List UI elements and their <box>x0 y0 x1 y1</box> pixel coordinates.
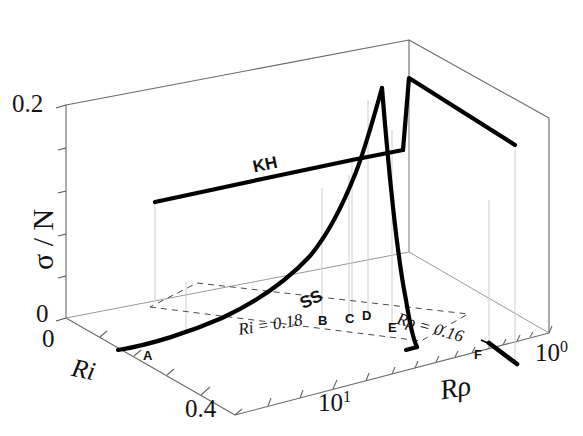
x-tick-2 <box>134 350 141 356</box>
z-axis-label: σ / N <box>26 209 60 270</box>
curve-e-hook <box>406 347 417 350</box>
z-tick-label-min: 0 <box>36 300 49 328</box>
point-label-e: E <box>388 320 397 335</box>
y-tick-h <box>455 351 458 357</box>
x-tick-label-max: 0.4 <box>185 395 216 423</box>
z-tick-major-top <box>56 105 66 108</box>
z-tick-major-bot <box>56 318 66 321</box>
y-tick-a <box>268 398 271 406</box>
y-tick-mantissa-0: 10 <box>535 339 560 366</box>
x-tick-1 <box>100 331 107 337</box>
y-tick-label-10e0: 100 <box>535 338 568 367</box>
curve-f-segment <box>489 343 517 364</box>
y-tick-mantissa-1: 10 <box>318 389 343 416</box>
y-tick-exponent-0: 0 <box>560 338 568 355</box>
y-tick-exponent-1: 1 <box>343 388 351 405</box>
back-left-wall <box>66 40 409 318</box>
y-tick-m <box>530 332 533 337</box>
point-label-d: D <box>362 308 371 323</box>
curve-ss <box>118 88 382 350</box>
curve-kh-peak <box>403 78 515 150</box>
back-right-wall <box>409 40 549 333</box>
point-label-a: A <box>143 348 152 363</box>
z-tick-label-max: 0.2 <box>12 90 43 118</box>
figure-canvas: 0.2 0 σ / N 0 0.4 Ri 101 100 Rρ KH SS Ri… <box>0 0 583 436</box>
y-axis-ticks <box>268 326 552 406</box>
point-label-f: F <box>474 347 482 362</box>
point-label-c: C <box>345 311 354 326</box>
z-tick-minor-4 <box>58 276 66 278</box>
x-axis-ticks <box>100 331 242 415</box>
curve-kh <box>155 150 403 202</box>
z-tick-minor-2 <box>58 191 66 193</box>
x-tick-major <box>201 387 210 395</box>
y-axis-label: Rρ <box>437 370 473 407</box>
y-tick-label-10e1: 101 <box>318 388 351 417</box>
x-tick-3 <box>167 369 174 375</box>
x-tick-label-min: 0 <box>42 325 55 353</box>
y-tick-g <box>436 356 439 362</box>
point-label-b: B <box>318 313 327 328</box>
y-tick-l <box>517 335 520 341</box>
z-tick-minor-1 <box>58 148 66 150</box>
